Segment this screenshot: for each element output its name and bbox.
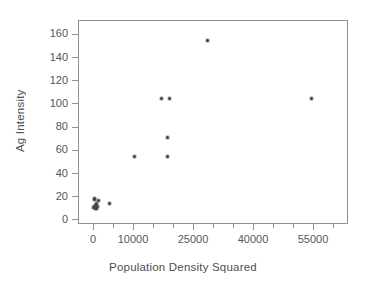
y-axis-tick-label: 100 (50, 98, 68, 109)
plot-area (78, 20, 348, 224)
x-axis-tick-label: 0 (90, 234, 96, 245)
y-axis-tick-label: 80 (56, 121, 68, 132)
x-axis-minor-tick (333, 224, 334, 228)
y-axis-tick-label: 40 (56, 168, 68, 179)
scatter-chart: 0204060801001201401600100002500040000550… (0, 0, 366, 289)
y-axis-tick (72, 219, 78, 220)
y-axis-tick-label: 60 (56, 144, 68, 155)
x-axis-minor-tick (213, 224, 214, 228)
y-axis-tick (72, 34, 78, 35)
y-axis-tick (72, 196, 78, 197)
x-axis-tick (193, 224, 194, 230)
y-axis-tick-label: 20 (56, 191, 68, 202)
data-point (108, 202, 111, 205)
x-axis-minor-tick (293, 224, 294, 228)
y-axis-tick (72, 57, 78, 58)
x-axis-minor-tick (153, 224, 154, 228)
x-axis-tick (133, 224, 134, 230)
data-point (97, 199, 100, 202)
y-axis-tick-label: 120 (50, 75, 68, 86)
x-axis-minor-tick (233, 224, 234, 228)
data-point (160, 97, 163, 100)
x-axis-tick (253, 224, 254, 230)
y-axis-tick-label: 140 (50, 52, 68, 63)
data-point (168, 97, 171, 100)
x-axis-minor-tick (113, 224, 114, 228)
x-axis-minor-tick (173, 224, 174, 228)
y-axis-tick (72, 150, 78, 151)
x-axis-tick-label: 10000 (118, 234, 149, 245)
y-axis-tick-label: 160 (50, 28, 68, 39)
x-axis-tick-label: 40000 (238, 234, 269, 245)
y-axis-title: Ag Intensity (14, 56, 27, 186)
y-axis-tick (72, 127, 78, 128)
y-axis-tick (72, 103, 78, 104)
y-axis-tick (72, 80, 78, 81)
data-point (96, 205, 99, 208)
data-point (206, 39, 209, 42)
y-axis-tick (72, 173, 78, 174)
x-axis-tick (313, 224, 314, 230)
x-axis-tick-label: 55000 (298, 234, 329, 245)
x-axis-tick (93, 224, 94, 230)
x-axis-tick-label: 25000 (178, 234, 209, 245)
data-point (166, 136, 169, 139)
data-point (166, 155, 169, 158)
data-point (310, 97, 313, 100)
data-point (133, 155, 136, 158)
x-axis-title: Population Density Squared (0, 261, 366, 273)
x-axis-minor-tick (273, 224, 274, 228)
y-axis-tick-label: 0 (62, 214, 68, 225)
